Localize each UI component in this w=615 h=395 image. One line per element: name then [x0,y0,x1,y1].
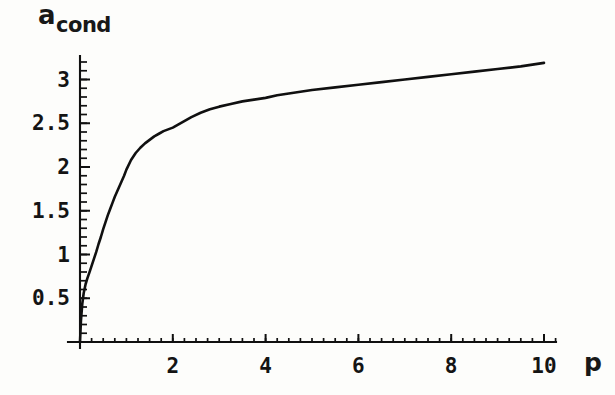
data-series-curve [80,63,544,342]
x-axis-tick-label: 6 [352,354,365,378]
y-axis-tick-label: 0.5 [32,286,70,310]
y-axis-tick-label: 2.5 [32,111,70,135]
x-axis-major-ticks [173,334,544,341]
x-axis-tick-label: 8 [445,354,458,378]
x-axis-tick-label: 2 [166,354,179,378]
chart-plot-area: 0.511.522.53 246810 [0,0,615,395]
y-axis-tick-label: 2 [57,155,70,179]
chart-figure: acond p 0.511.522.53 246810 [0,0,615,395]
y-axis-major-ticks [81,80,90,299]
x-axis-tick-label: 10 [531,354,556,378]
y-axis-tick-label: 3 [57,68,70,92]
y-axis-tick-label: 1 [57,243,70,267]
y-axis-tick-label: 1.5 [32,199,70,223]
x-axis-minor-ticks [92,338,556,341]
y-axis-tick-labels: 0.511.522.53 [32,68,70,311]
x-axis-tick-label: 4 [259,354,272,378]
x-axis-tick-labels: 246810 [166,354,556,378]
